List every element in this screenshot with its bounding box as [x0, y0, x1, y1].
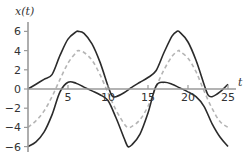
series-upper-envelope [28, 31, 228, 97]
y-tick-label: 4 [14, 45, 21, 58]
y-ticks: 6420−2−4−6 [5, 25, 28, 153]
x-tick-label: 25 [221, 91, 235, 104]
x-axis-label: t [238, 76, 243, 89]
y-tick-label: −2 [5, 102, 21, 115]
x-tick-label: 10 [101, 91, 115, 104]
chart: 6420−2−4−6 510152025 x(t) t [0, 0, 251, 158]
y-tick-label: 2 [14, 64, 21, 77]
x-ticks: 510152025 [65, 85, 236, 104]
x-tick-label: 15 [141, 91, 155, 104]
y-tick-label: 0 [14, 83, 21, 96]
y-axis-label: x(t) [15, 5, 34, 18]
x-tick-label: 5 [65, 91, 72, 104]
y-tick-label: 6 [14, 25, 21, 38]
series-lower-envelope [28, 82, 228, 147]
y-tick-label: −4 [5, 121, 21, 134]
y-tick-label: −6 [5, 141, 21, 154]
x-tick-label: 20 [181, 91, 195, 104]
